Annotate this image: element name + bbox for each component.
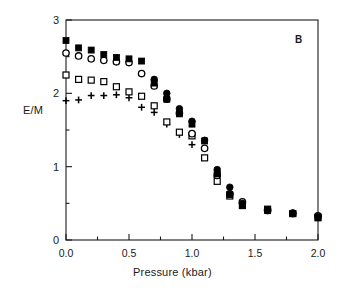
- x-tick-label: 0.0: [59, 247, 74, 259]
- x-tick-label: 2.0: [311, 247, 326, 259]
- series-plus: [63, 91, 234, 198]
- series-filled-square: [63, 38, 321, 221]
- x-tick-label: 0.5: [122, 247, 137, 259]
- chart-figure: E/M Pressure (kbar) B 0.00.51.01.52.0012…: [0, 0, 361, 295]
- series-filled-circle: [151, 76, 321, 220]
- y-tick-label: 3: [47, 14, 59, 26]
- scatter-plot-area: [0, 0, 361, 295]
- y-tick-label: 0: [47, 234, 59, 246]
- series-open-circle: [63, 50, 321, 219]
- x-tick-label: 1.0: [185, 247, 200, 259]
- y-tick-label: 2: [47, 87, 59, 99]
- x-tick-label: 1.5: [248, 247, 263, 259]
- y-tick-label: 1: [47, 161, 59, 173]
